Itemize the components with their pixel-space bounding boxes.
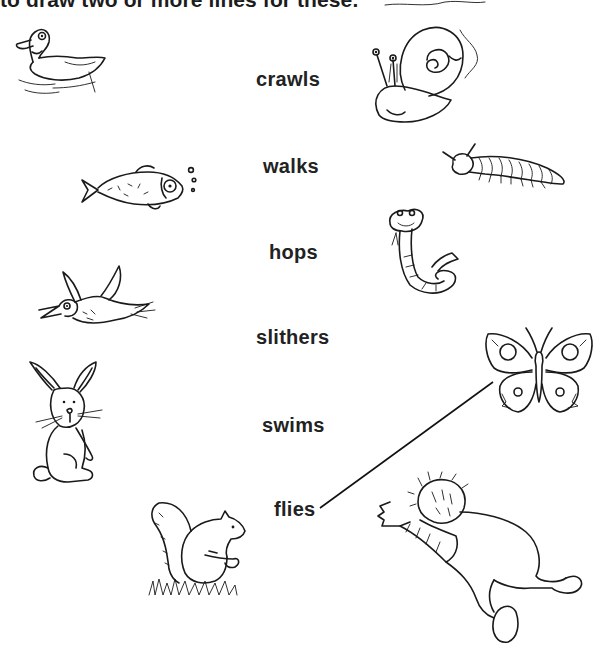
verb-swims[interactable]: swims bbox=[262, 414, 325, 437]
bird-icon bbox=[35, 262, 160, 337]
crawling-baby-icon bbox=[370, 472, 585, 652]
snake-icon bbox=[382, 205, 467, 297]
fish-picture[interactable] bbox=[78, 158, 203, 216]
snake-picture[interactable] bbox=[382, 205, 467, 297]
caterpillar-picture[interactable] bbox=[435, 140, 575, 195]
duck-icon bbox=[5, 22, 115, 100]
instruction-text: to draw two or more lines for these. bbox=[0, 0, 358, 12]
rabbit-picture[interactable] bbox=[12, 358, 107, 493]
bird-picture[interactable] bbox=[35, 262, 160, 337]
snail-icon bbox=[365, 0, 495, 125]
verb-slithers[interactable]: slithers bbox=[256, 326, 330, 349]
verb-crawls[interactable]: crawls bbox=[256, 68, 320, 91]
caterpillar-icon bbox=[435, 140, 575, 195]
crawling-baby-picture[interactable] bbox=[370, 472, 585, 652]
butterfly-icon bbox=[482, 322, 597, 418]
fish-icon bbox=[78, 158, 203, 216]
verb-flies[interactable]: flies bbox=[274, 498, 316, 521]
butterfly-picture[interactable] bbox=[482, 322, 597, 418]
squirrel-picture[interactable] bbox=[145, 483, 255, 598]
snail-picture[interactable] bbox=[365, 0, 495, 125]
duck-picture[interactable] bbox=[5, 22, 115, 100]
rabbit-icon bbox=[12, 358, 107, 493]
squirrel-icon bbox=[145, 483, 255, 598]
verb-hops[interactable]: hops bbox=[269, 241, 318, 264]
verb-walks[interactable]: walks bbox=[263, 155, 319, 178]
